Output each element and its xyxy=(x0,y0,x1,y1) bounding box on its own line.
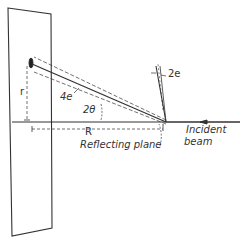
diffraction-diagram xyxy=(0,0,242,241)
label-r: r xyxy=(20,87,24,97)
diffraction-spot xyxy=(29,58,33,68)
label-2e: 2e xyxy=(168,69,181,79)
label-reflecting-plane: Reflecting plane xyxy=(80,140,162,150)
label-4e: 4e xyxy=(60,92,73,102)
label-R: R xyxy=(85,127,92,137)
label-2theta: 2θ xyxy=(83,105,95,115)
reflected-ray xyxy=(32,64,166,122)
two-theta-arc xyxy=(101,104,102,120)
label-beam: beam xyxy=(184,137,212,147)
divergence-lower xyxy=(34,72,166,124)
two-e-arrow-right xyxy=(161,75,166,76)
divergence-upper xyxy=(34,57,166,120)
label-incident: Incident xyxy=(186,125,226,135)
